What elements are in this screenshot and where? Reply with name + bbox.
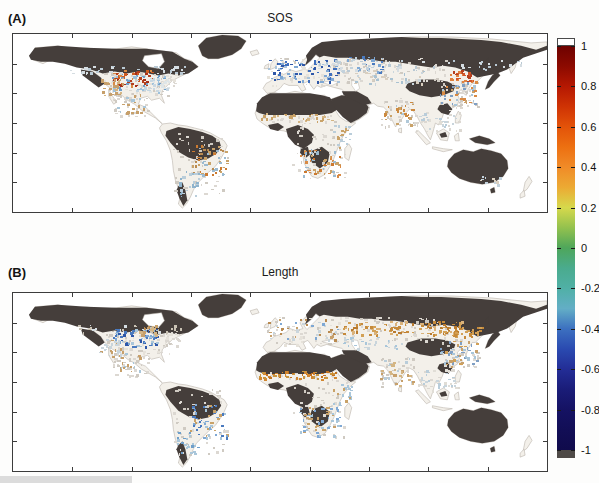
panel-a-title: SOS <box>12 11 548 25</box>
colorbar-tick-label: -0.8 <box>581 404 599 416</box>
colorbar-tick-label: 0.6 <box>581 121 596 133</box>
axis-tick <box>428 467 429 471</box>
panel-b-map <box>12 292 548 472</box>
colorbar-tick-mark <box>571 208 575 209</box>
colorbar-tick-mark <box>557 86 561 87</box>
axis-tick <box>543 153 547 154</box>
axis-tick <box>191 208 192 212</box>
colorbar-tick-label: -1 <box>581 444 591 456</box>
colorbar-tick-mark <box>557 248 561 249</box>
world-map-svg-a <box>13 34 547 212</box>
colorbar-tick-mark <box>557 450 561 451</box>
axis-tick <box>543 123 547 124</box>
axis-tick <box>488 34 489 38</box>
caption-strip-artifact <box>0 476 132 483</box>
axis-tick <box>13 153 17 154</box>
axis-tick <box>13 123 17 124</box>
axis-tick <box>72 467 73 471</box>
colorbar-tick-mark <box>557 46 561 47</box>
axis-tick <box>428 208 429 212</box>
axis-tick <box>488 467 489 471</box>
axis-tick <box>543 64 547 65</box>
colorbar-tick-mark <box>571 127 575 128</box>
axis-tick <box>428 293 429 297</box>
axis-tick <box>250 208 251 212</box>
colorbar-tick-mark <box>557 288 561 289</box>
panel-a-map <box>12 33 548 213</box>
axis-tick <box>72 293 73 297</box>
colorbar-tick-mark <box>571 46 575 47</box>
axis-tick <box>13 64 17 65</box>
colorbar-tick-mark <box>557 329 561 330</box>
axis-tick <box>543 182 547 183</box>
axis-tick <box>310 467 311 471</box>
axis-tick <box>132 293 133 297</box>
axis-tick <box>310 208 311 212</box>
axis-tick <box>543 352 547 353</box>
colorbar-tick-mark <box>571 167 575 168</box>
colorbar-tick-mark <box>571 329 575 330</box>
colorbar-tick-mark <box>571 369 575 370</box>
axis-tick <box>13 382 17 383</box>
axis-tick <box>13 323 17 324</box>
axis-tick <box>191 467 192 471</box>
axis-tick <box>369 208 370 212</box>
axis-tick <box>250 34 251 38</box>
axis-tick <box>191 34 192 38</box>
colorbar-tick-mark <box>557 208 561 209</box>
axis-tick <box>310 34 311 38</box>
colorbar-tick-mark <box>571 410 575 411</box>
axis-tick <box>72 208 73 212</box>
axis-tick <box>132 467 133 471</box>
axis-tick <box>543 93 547 94</box>
colorbar-tick-mark <box>557 167 561 168</box>
colorbar-tick-label: 1 <box>581 40 587 52</box>
axis-tick <box>488 208 489 212</box>
axis-tick <box>191 293 192 297</box>
axis-tick <box>13 182 17 183</box>
colorbar-top-cap <box>557 38 575 46</box>
axis-tick <box>132 34 133 38</box>
colorbar-tick-label: 0.4 <box>581 161 596 173</box>
axis-tick <box>488 293 489 297</box>
axis-tick <box>13 412 17 413</box>
axis-tick <box>428 34 429 38</box>
colorbar-tick-label: 0.8 <box>581 80 596 92</box>
axis-tick <box>369 34 370 38</box>
colorbar <box>557 38 577 458</box>
axis-tick <box>543 382 547 383</box>
panel-b-title: Length <box>12 265 548 279</box>
axis-tick <box>310 293 311 297</box>
axis-tick <box>543 323 547 324</box>
axis-tick <box>543 412 547 413</box>
axis-tick <box>72 34 73 38</box>
axis-tick <box>369 293 370 297</box>
axis-tick <box>13 352 17 353</box>
axis-tick <box>543 441 547 442</box>
colorbar-tick-label: -0.4 <box>581 323 599 335</box>
colorbar-tick-label: 0 <box>581 242 587 254</box>
colorbar-tick-mark <box>571 450 575 451</box>
axis-tick <box>369 467 370 471</box>
colorbar-tick-mark <box>557 369 561 370</box>
colorbar-tick-mark <box>557 127 561 128</box>
axis-tick <box>250 467 251 471</box>
axis-tick <box>132 208 133 212</box>
colorbar-bottom-cap <box>557 450 575 458</box>
colorbar-tick-mark <box>571 288 575 289</box>
colorbar-tick-label: -0.6 <box>581 363 599 375</box>
axis-tick <box>13 441 17 442</box>
figure-canvas: (A) SOS (B) Length 10.80.60.40.20-0.2-0.… <box>0 0 599 483</box>
colorbar-tick-mark <box>571 248 575 249</box>
colorbar-tick-label: 0.2 <box>581 202 596 214</box>
world-map-svg-b <box>13 293 547 471</box>
colorbar-tick-mark <box>571 86 575 87</box>
axis-tick <box>13 93 17 94</box>
colorbar-tick-label: -0.2 <box>581 282 599 294</box>
axis-tick <box>250 293 251 297</box>
colorbar-tick-mark <box>557 410 561 411</box>
